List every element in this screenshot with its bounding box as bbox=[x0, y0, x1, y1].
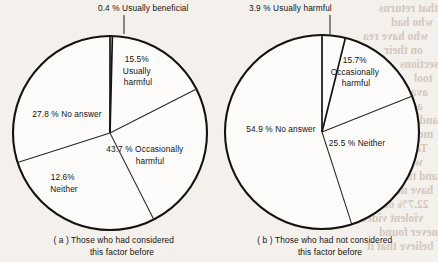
pie-chart-a: 0.4 % Usually beneficial 15.5% Usually h… bbox=[13, 3, 207, 257]
pie-b-label-neither: 25.5 % Neither bbox=[329, 138, 385, 148]
pie-a-caption: ( a ) Those who had considered this fact… bbox=[53, 235, 176, 257]
pie-a-label-no-answer: 27.8 % No answer bbox=[32, 109, 102, 119]
pie-b-label-no-answer: 54.9 % No answer bbox=[246, 124, 316, 134]
pie-chart-b: 3.9 % Usually harmful 15.7% Occasionally… bbox=[225, 3, 419, 257]
pie-b-caption: ( b ) Those who had not considered this … bbox=[257, 235, 394, 257]
pie-a-label-neither: 12.6% Neither bbox=[50, 172, 78, 194]
pie-b-label-usually-harmful: 3.9 % Usually harmful bbox=[249, 3, 332, 13]
pie-a-label-usually-harmful: 15.5% Usually harmful bbox=[123, 54, 153, 87]
pie-a-label-usually-beneficial: 0.4 % Usually beneficial bbox=[98, 3, 189, 13]
